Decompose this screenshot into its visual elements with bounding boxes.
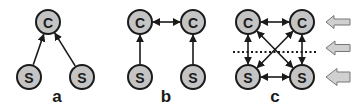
diagram-canvas: CSSCCSSCCSS a b c — [0, 0, 361, 106]
node-letter: S — [243, 70, 252, 86]
node-letter: C — [243, 15, 253, 31]
node-c-s1: S — [236, 65, 260, 89]
node-letter: C — [188, 15, 198, 31]
edge-a-s1-a-c — [33, 34, 44, 64]
edge-a-s2-a-c — [55, 33, 75, 66]
node-letter: S — [188, 70, 197, 86]
node-c-s2: S — [290, 65, 314, 89]
node-c-c2: C — [290, 10, 314, 34]
node-b-c2: C — [181, 10, 205, 34]
node-b-s2: S — [181, 65, 205, 89]
panel-label-b: b — [161, 87, 171, 106]
left-arrow-icon-top — [326, 16, 350, 29]
node-letter: C — [297, 15, 307, 31]
node-letter: S — [297, 70, 306, 86]
panel-label-a: a — [52, 87, 62, 106]
node-letter: C — [135, 15, 145, 31]
node-b-s1: S — [128, 65, 152, 89]
node-b-c1: C — [128, 10, 152, 34]
labels-layer: a b c — [52, 87, 279, 106]
node-letter: S — [135, 70, 144, 86]
node-letter: S — [77, 70, 86, 86]
node-letter: C — [43, 15, 53, 31]
node-c-c1: C — [236, 10, 260, 34]
left-arrow-icon-bottom — [326, 69, 350, 86]
node-a-s2: S — [70, 65, 94, 89]
node-letter: S — [24, 70, 33, 86]
node-a-c: C — [36, 10, 60, 34]
panel-label-c: c — [270, 87, 279, 106]
left-arrow-icon-middle — [326, 41, 350, 55]
node-a-s1: S — [17, 65, 41, 89]
